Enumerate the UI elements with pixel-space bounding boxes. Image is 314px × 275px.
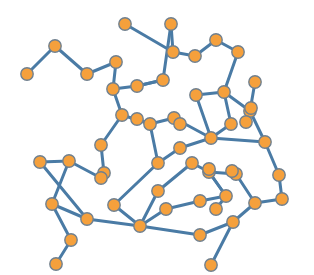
graph-node[interactable] bbox=[174, 142, 186, 154]
graph-node[interactable] bbox=[81, 68, 93, 80]
graph-node[interactable] bbox=[259, 136, 271, 148]
graph-node[interactable] bbox=[210, 203, 222, 215]
graph-node[interactable] bbox=[157, 74, 169, 86]
graph-node[interactable] bbox=[46, 198, 58, 210]
graph-node[interactable] bbox=[152, 157, 164, 169]
graph-node[interactable] bbox=[81, 213, 93, 225]
graph-node[interactable] bbox=[110, 56, 122, 68]
graph-node[interactable] bbox=[134, 220, 146, 232]
graph-node[interactable] bbox=[34, 156, 46, 168]
graph-node[interactable] bbox=[210, 34, 222, 46]
graph-node[interactable] bbox=[107, 83, 119, 95]
graph-node[interactable] bbox=[95, 172, 107, 184]
graph-node[interactable] bbox=[232, 46, 244, 58]
graph-node[interactable] bbox=[190, 89, 202, 101]
graph-node[interactable] bbox=[276, 193, 288, 205]
graph-node[interactable] bbox=[240, 116, 252, 128]
graph-node[interactable] bbox=[189, 50, 201, 62]
graph-node[interactable] bbox=[65, 234, 77, 246]
graph-node[interactable] bbox=[186, 157, 198, 169]
graph-node[interactable] bbox=[116, 109, 128, 121]
graph-node[interactable] bbox=[273, 169, 285, 181]
network-graph bbox=[0, 0, 314, 275]
graph-node[interactable] bbox=[95, 139, 107, 151]
graph-node[interactable] bbox=[227, 216, 239, 228]
graph-node[interactable] bbox=[144, 118, 156, 130]
graph-node[interactable] bbox=[205, 259, 217, 271]
graph-node[interactable] bbox=[194, 229, 206, 241]
graph-node[interactable] bbox=[203, 163, 215, 175]
graph-node[interactable] bbox=[165, 18, 177, 30]
graph-node[interactable] bbox=[152, 185, 164, 197]
graph-node[interactable] bbox=[226, 165, 238, 177]
graph-node[interactable] bbox=[21, 68, 33, 80]
graph-node[interactable] bbox=[194, 195, 206, 207]
graph-node[interactable] bbox=[218, 86, 230, 98]
graph-node[interactable] bbox=[119, 18, 131, 30]
graph-node[interactable] bbox=[50, 258, 62, 270]
graph-node[interactable] bbox=[131, 80, 143, 92]
graph-node[interactable] bbox=[225, 118, 237, 130]
graph-node[interactable] bbox=[245, 102, 257, 114]
graph-node[interactable] bbox=[174, 118, 186, 130]
graph-node[interactable] bbox=[205, 132, 217, 144]
graph-node[interactable] bbox=[249, 197, 261, 209]
graph-node[interactable] bbox=[63, 155, 75, 167]
graph-node[interactable] bbox=[49, 40, 61, 52]
graph-node[interactable] bbox=[220, 190, 232, 202]
graph-node[interactable] bbox=[249, 76, 261, 88]
graph-node[interactable] bbox=[108, 199, 120, 211]
graph-node[interactable] bbox=[160, 203, 172, 215]
graph-node[interactable] bbox=[131, 113, 143, 125]
graph-node[interactable] bbox=[167, 46, 179, 58]
